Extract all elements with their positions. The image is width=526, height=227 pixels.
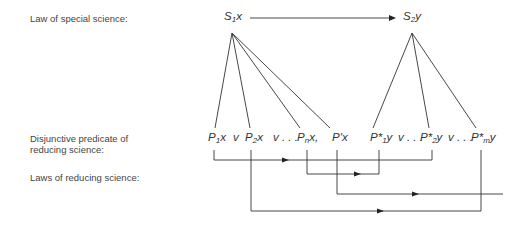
law-arrowheads <box>282 158 419 214</box>
diagram-lines <box>0 0 526 227</box>
bridge-arrowhead-icon <box>389 15 396 21</box>
arrowhead-icon <box>354 172 361 177</box>
arrowhead-icon <box>412 192 419 197</box>
arrowhead-icon <box>282 158 289 163</box>
arrowhead-icon <box>377 209 384 214</box>
